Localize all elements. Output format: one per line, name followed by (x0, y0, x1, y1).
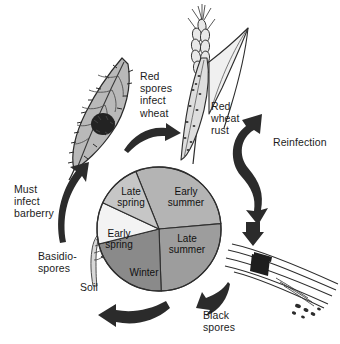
label-basidiospores: Basidio- spores (38, 250, 77, 274)
label-soil: Soil (80, 281, 98, 293)
pie-label-early-summer: Early summer (164, 186, 208, 209)
arrow-wheat-to-straw (241, 222, 265, 248)
wheat-straw-illustration (224, 238, 340, 326)
label-black-spores: Black spores (203, 309, 235, 333)
label-must-infect-barberry: Must infect barberry (14, 183, 54, 220)
wheat-rust-life-cycle-diagram: Late spring Early summer Late summer Win… (0, 0, 340, 344)
arrow-barberry-to-wheat (122, 124, 184, 154)
arrow-soil-to-barberry (94, 300, 172, 328)
pie-label-late-spring: Late spring (110, 186, 152, 209)
pie-label-early-spring: Early spring (98, 228, 140, 251)
pie-label-winter: Winter (124, 267, 164, 278)
pie-label-late-summer: Late summer (166, 233, 208, 256)
label-red-wheat-rust: Red wheat rust (211, 100, 240, 137)
arrow-basidiospore-to-leaf (56, 160, 92, 244)
label-red-spores-infect-wheat: Red spores infect wheat (140, 70, 172, 119)
label-reinfection: Reinfection (273, 136, 327, 148)
